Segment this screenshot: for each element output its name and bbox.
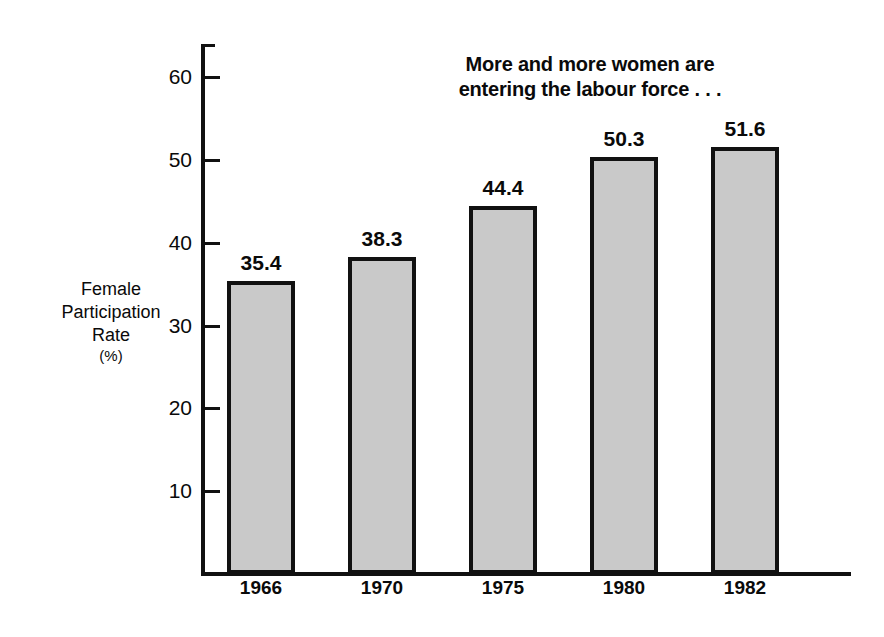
- y-axis-tick-label: 50: [140, 149, 192, 170]
- bar-group: 50.31980: [590, 44, 658, 574]
- plot-area: 35.4196638.3197044.4197550.3198051.61982: [205, 44, 851, 574]
- bar-group: 35.41966: [227, 44, 295, 574]
- x-axis-category-label: 1970: [316, 578, 448, 598]
- x-axis-category-label: 1982: [679, 578, 811, 598]
- y-axis-tick-label: 10: [140, 480, 192, 501]
- y-axis-title: Female Participation Rate: [36, 278, 186, 347]
- bar[interactable]: [469, 206, 537, 574]
- bar[interactable]: [348, 257, 416, 574]
- bar[interactable]: [227, 281, 295, 574]
- y-axis-tick-label: 20: [140, 397, 192, 418]
- x-axis-category-label: 1980: [558, 578, 690, 598]
- y-axis-unit-label: (%): [36, 347, 186, 364]
- x-axis-category-label: 1975: [437, 578, 569, 598]
- bar-value-label: 44.4: [441, 177, 565, 199]
- bar-value-label: 38.3: [320, 228, 444, 250]
- bar-group: 44.41975: [469, 44, 537, 574]
- bar-group: 51.61982: [711, 44, 779, 574]
- bar-group: 38.31970: [348, 44, 416, 574]
- bar[interactable]: [590, 157, 658, 574]
- y-axis-tick-label: 60: [140, 66, 192, 87]
- bar[interactable]: [711, 147, 779, 574]
- y-axis-tick-label: 40: [140, 232, 192, 253]
- bar-value-label: 50.3: [562, 128, 686, 150]
- x-axis-category-label: 1966: [195, 578, 327, 598]
- bar-value-label: 51.6: [683, 118, 807, 140]
- bar-value-label: 35.4: [199, 252, 323, 274]
- bar-chart: More and more women are entering the lab…: [0, 0, 884, 637]
